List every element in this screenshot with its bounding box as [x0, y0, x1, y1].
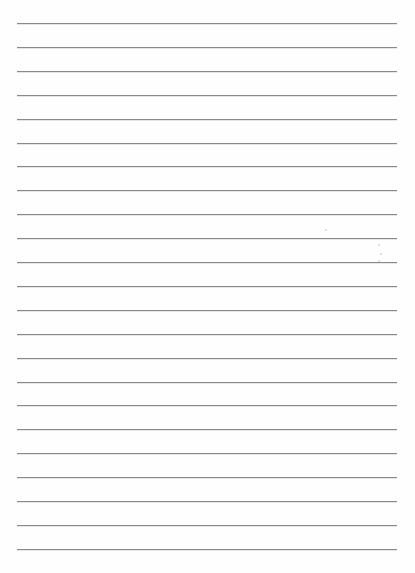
- ruled-line: [17, 71, 397, 72]
- ruled-line: [17, 382, 397, 383]
- ruled-line: [17, 453, 397, 454]
- ruled-line: [17, 334, 397, 335]
- ruled-line: [17, 549, 397, 550]
- ruled-line: [17, 119, 397, 120]
- ruled-line: [17, 286, 397, 287]
- ruled-line: [17, 214, 397, 215]
- ruled-line: [17, 310, 397, 311]
- ruled-line: [17, 238, 397, 239]
- scan-speck: [378, 244, 380, 246]
- ruled-line: [17, 23, 397, 24]
- ruled-line: [17, 429, 397, 430]
- ruled-line: [17, 358, 397, 359]
- scan-speck: [325, 229, 327, 231]
- ruled-line: [17, 405, 397, 406]
- ruled-line: [17, 166, 397, 167]
- ruled-line: [17, 525, 397, 526]
- ruled-line: [17, 477, 397, 478]
- ruled-line: [17, 95, 397, 96]
- ruled-line: [17, 190, 397, 191]
- scan-speck: [380, 253, 382, 255]
- ruled-line: [17, 501, 397, 502]
- ruled-line: [17, 262, 397, 263]
- ruled-line: [17, 143, 397, 144]
- ruled-line: [17, 47, 397, 48]
- lined-paper-sheet: [0, 0, 415, 573]
- scan-speck: [378, 260, 380, 262]
